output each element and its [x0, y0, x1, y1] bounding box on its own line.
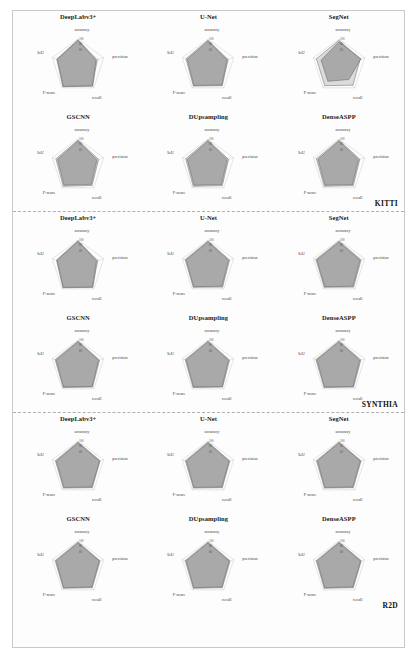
radar-axis-label-f-score: F-score [173, 90, 186, 95]
radar-axis-label-f-score: F-score [304, 592, 317, 597]
radar-axis-label-precision: precision [243, 556, 259, 561]
radar-axis-label-f-score: F-score [173, 492, 186, 497]
radar-series-inner [188, 141, 228, 185]
radar-chart: 6080100accuracyprecisionrecallF-scoreIoU [19, 322, 137, 412]
radar-container: 6080100accuracyprecisionrecallF-scoreIoU [143, 222, 273, 312]
chart-title: DeepLabv3+ [13, 415, 143, 422]
radar-tick-label: 80 [209, 243, 213, 247]
radar-axis-label-iou: IoU [37, 452, 44, 457]
radar-series-inner [187, 342, 229, 387]
radar-axis-label-iou: IoU [298, 150, 305, 155]
radar-axis-label-accuracy: accuracy [335, 328, 351, 333]
radar-chart: 6080100accuracyprecisionrecallF-scoreIoU [149, 121, 267, 211]
dataset-label: KITTI [375, 199, 398, 208]
radar-chart: 6080100accuracyprecisionrecallF-scoreIoU [280, 322, 398, 412]
radar-axis-label-f-score: F-score [173, 592, 186, 597]
chart-title: U-Net [143, 214, 273, 221]
radar-tick-label: 80 [340, 142, 344, 146]
radar-series-inner [187, 443, 230, 488]
radar-tick-label: 100 [209, 539, 214, 543]
radar-series-inner [188, 41, 228, 85]
radar-axis-label-precision: precision [243, 456, 259, 461]
radar-axis-label-f-score: F-score [304, 291, 317, 296]
radar-chart: 6080100accuracyprecisionrecallF-scoreIoU [19, 21, 137, 111]
chart-title: GSCNN [13, 314, 143, 321]
radar-tick-label: 100 [209, 37, 214, 41]
dataset-section-kitti: DeepLabv3+6080100accuracyprecisionrecall… [13, 11, 404, 211]
radar-chart: 6080100accuracyprecisionrecallF-scoreIoU [19, 121, 137, 211]
radar-axis-label-recall: recall [353, 497, 363, 502]
radar-axis-label-iou: IoU [298, 452, 305, 457]
radar-container: 6080100accuracyprecisionrecallF-scoreIoU [274, 21, 404, 111]
radar-axis-label-precision: precision [112, 456, 128, 461]
dataset-section-synthia: DeepLabv3+6080100accuracyprecisionrecall… [13, 211, 404, 412]
radar-axis-label-precision: precision [373, 556, 389, 561]
chart-cell: U-Net6080100accuracyprecisionrecallF-sco… [143, 413, 273, 513]
radar-tick-label: 100 [209, 338, 214, 342]
radar-axis-label-accuracy: accuracy [205, 529, 221, 534]
radar-tick-label: 100 [340, 439, 345, 443]
radar-chart: 6080100accuracyprecisionrecallF-scoreIoU [19, 523, 137, 613]
chart-cell: GSCNN6080100accuracyprecisionrecallF-sco… [13, 513, 143, 613]
radar-series-inner [187, 242, 229, 287]
radar-container: 6080100accuracyprecisionrecallF-scoreIoU [274, 423, 404, 513]
radar-tick-label: 80 [340, 42, 344, 46]
radar-tick-label: 80 [209, 544, 213, 548]
radar-series-inner [317, 342, 360, 387]
radar-tick-label: 100 [209, 238, 214, 242]
radar-tick-label: 100 [79, 539, 84, 543]
radar-axis-label-precision: precision [112, 355, 128, 360]
dataset-label: R2D [383, 601, 398, 610]
radar-axis-label-recall: recall [353, 95, 363, 100]
radar-container: 6080100accuracyprecisionrecallF-scoreIoU [13, 21, 143, 111]
radar-tick-label: 60 [79, 450, 83, 454]
chart-cell: DenseASPP6080100accuracyprecisionrecallF… [274, 111, 404, 211]
chart-cell: DUpsampling6080100accuracyprecisionrecal… [143, 111, 273, 211]
radar-axis-label-iou: IoU [168, 50, 175, 55]
chart-cell: GSCNN6080100accuracyprecisionrecallF-sco… [13, 111, 143, 211]
radar-container: 6080100accuracyprecisionrecallF-scoreIoU [274, 322, 404, 412]
chart-title: DUpsampling [143, 515, 273, 522]
radar-tick-label: 100 [209, 137, 214, 141]
radar-container: 6080100accuracyprecisionrecallF-scoreIoU [274, 523, 404, 613]
radar-axis-label-recall: recall [92, 95, 102, 100]
radar-axis-label-recall: recall [223, 95, 233, 100]
radar-axis-label-precision: precision [373, 355, 389, 360]
radar-axis-label-precision: precision [112, 54, 128, 59]
radar-axis-label-f-score: F-score [43, 492, 56, 497]
chart-cell: DUpsampling6080100accuracyprecisionrecal… [143, 312, 273, 412]
radar-axis-label-accuracy: accuracy [75, 228, 91, 233]
radar-series-inner [318, 141, 359, 185]
radar-axis-label-iou: IoU [168, 351, 175, 356]
radar-tick-label: 60 [79, 148, 83, 152]
radar-tick-label: 80 [79, 243, 83, 247]
radar-axis-label-f-score: F-score [173, 291, 186, 296]
radar-series-inner [58, 40, 97, 86]
radar-container: 6080100accuracyprecisionrecallF-scoreIoU [143, 423, 273, 513]
radar-tick-label: 80 [340, 544, 344, 548]
radar-tick-label: 60 [340, 249, 344, 253]
radar-tick-label: 100 [79, 137, 84, 141]
chart-row: GSCNN6080100accuracyprecisionrecallF-sco… [13, 312, 404, 412]
radar-tick-label: 60 [340, 450, 344, 454]
radar-chart: 6080100accuracyprecisionrecallF-scoreIoU [149, 21, 267, 111]
radar-tick-label: 100 [340, 238, 345, 242]
radar-tick-label: 100 [340, 37, 345, 41]
radar-series-inner [57, 443, 100, 488]
chart-cell: SegNet6080100accuracyprecisionrecallF-sc… [274, 11, 404, 111]
radar-series-inner [187, 543, 230, 588]
radar-axis-label-iou: IoU [37, 351, 44, 356]
chart-row: DeepLabv3+6080100accuracyprecisionrecall… [13, 212, 404, 312]
radar-axis-label-accuracy: accuracy [335, 529, 351, 534]
radar-axis-label-recall: recall [223, 195, 233, 200]
radar-axis-label-accuracy: accuracy [75, 328, 91, 333]
radar-chart: 6080100accuracyprecisionrecallF-scoreIoU [280, 121, 398, 211]
radar-series-inner [56, 543, 99, 588]
radar-tick-label: 100 [79, 37, 84, 41]
radar-tick-label: 60 [209, 550, 213, 554]
radar-axis-label-recall: recall [223, 597, 233, 602]
radar-axis-label-f-score: F-score [43, 391, 56, 396]
radar-axis-label-precision: precision [243, 355, 259, 360]
radar-tick-label: 80 [79, 343, 83, 347]
chart-title: GSCNN [13, 113, 143, 120]
